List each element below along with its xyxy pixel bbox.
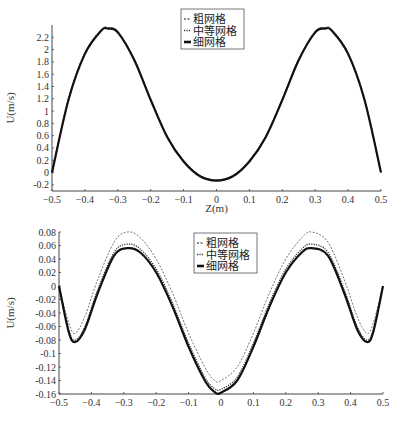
- y-tick-label: 0.2: [37, 155, 50, 166]
- x-tick-label: −0.2: [147, 397, 165, 408]
- velocity-profile-chart-bottom: −0.5−0.4−0.3−0.2−0.100.10.20.30.40.50.08…: [4, 227, 389, 409]
- y-tick-label: -0.04: [35, 308, 56, 319]
- legend-label: 细网格: [206, 259, 239, 273]
- series-line: [52, 27, 381, 180]
- y-tick-label: -0.1: [40, 348, 56, 359]
- y-tick-label: -0.2: [33, 179, 49, 190]
- y-tick-label: 1.8: [37, 56, 50, 67]
- x-tick-label: −0.3: [115, 397, 133, 408]
- y-tick-label: 0.4: [37, 142, 50, 153]
- y-tick-label: 1.2: [37, 93, 50, 104]
- x-tick-label: 0.2: [276, 194, 289, 205]
- x-tick-label: 0.2: [280, 397, 293, 408]
- y-tick-label: 0: [51, 281, 56, 292]
- x-tick-label: −0.2: [142, 194, 160, 205]
- y-tick-label: 1.6: [37, 69, 50, 80]
- x-tick-label: −0.3: [109, 194, 127, 205]
- x-tick-label: −0.1: [175, 194, 193, 205]
- y-axis-label: U(m/s): [4, 297, 17, 329]
- velocity-profile-chart-top: −0.5−0.4−0.3−0.2−0.100.10.20.30.40.5-0.2…: [4, 9, 387, 215]
- x-tick-label: −0.5: [43, 194, 61, 205]
- y-tick-label: 0: [44, 167, 49, 178]
- y-tick-label: 1.4: [37, 81, 50, 92]
- x-tick-label: 0.5: [375, 194, 388, 205]
- y-tick-label: -0.02: [35, 294, 56, 305]
- series-line: [52, 28, 381, 181]
- x-tick-label: 0.5: [377, 397, 390, 408]
- y-tick-label: 0.02: [39, 267, 57, 278]
- y-tick-label: -0.06: [35, 321, 56, 332]
- x-tick-label: 0: [219, 397, 224, 408]
- y-tick-label: -0.16: [35, 389, 56, 400]
- y-tick-label: -0.12: [35, 362, 56, 373]
- y-tick-label: 0.8: [37, 118, 50, 129]
- series-line: [52, 27, 381, 180]
- x-tick-label: 0.1: [247, 397, 260, 408]
- y-tick-label: 0.08: [39, 227, 57, 238]
- y-tick-label: 0.04: [39, 254, 57, 265]
- x-tick-label: 0.3: [309, 194, 322, 205]
- chart-canvas: −0.5−0.4−0.3−0.2−0.100.10.20.30.40.5-0.2…: [0, 0, 415, 431]
- y-tick-label: 2: [44, 44, 49, 55]
- legend-label: 细网格: [193, 35, 226, 49]
- legend: 粗网格中等网格细网格: [194, 233, 257, 273]
- y-tick-label: 2.2: [37, 32, 50, 43]
- x-tick-label: 0.4: [342, 194, 355, 205]
- x-tick-label: −0.1: [180, 397, 198, 408]
- x-tick-label: 0.4: [344, 397, 357, 408]
- y-tick-label: 0.06: [39, 240, 57, 251]
- legend: 粗网格中等网格细网格: [181, 9, 244, 49]
- x-axis-label: Z(m): [205, 202, 228, 215]
- x-tick-label: −0.4: [82, 397, 100, 408]
- y-tick-label: -0.08: [35, 335, 56, 346]
- y-axis-label: U(m/s): [4, 92, 17, 124]
- x-tick-label: 0.1: [243, 194, 256, 205]
- x-tick-label: 0.3: [312, 397, 325, 408]
- y-tick-label: 0.6: [37, 130, 50, 141]
- x-tick-label: −0.4: [76, 194, 94, 205]
- y-tick-label: 1: [44, 106, 49, 117]
- y-tick-label: -0.14: [35, 375, 56, 386]
